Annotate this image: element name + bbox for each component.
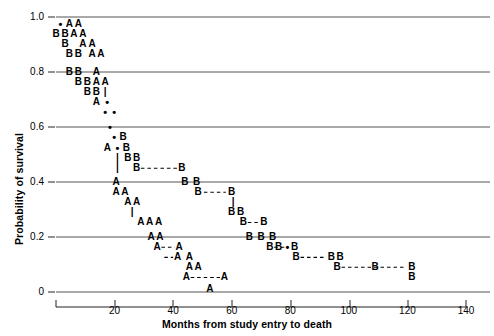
data-marker-b-14: B: [66, 67, 73, 77]
data-marker-b-66: B: [275, 242, 282, 252]
data-marker-b-39: B: [178, 163, 185, 173]
data-marker-|-37: |: [116, 163, 119, 173]
data-marker-|-50: |: [131, 207, 134, 217]
ytick-label-1.0: 1.0: [14, 11, 44, 22]
data-marker-a-24: A: [93, 97, 100, 107]
data-marker-a-80: A: [221, 272, 228, 282]
data-marker-a-55: A: [155, 217, 162, 227]
data-marker-censor-28: •: [108, 122, 112, 133]
data-marker-b-51: B: [228, 207, 235, 217]
y-axis-ticks: [48, 17, 55, 292]
data-marker-b-17: B: [75, 77, 82, 87]
xtick-label-80: 80: [270, 305, 310, 316]
data-marker-a-12: A: [88, 49, 95, 59]
x-axis-label: Months from study entry to death: [0, 318, 494, 330]
data-marker-a-31: A: [104, 143, 111, 153]
ytick-label-0.8: 0.8: [14, 66, 44, 77]
data-marker-b-45: B: [194, 187, 201, 197]
data-marker-a-54: A: [146, 217, 153, 227]
data-marker-a-5: A: [70, 29, 77, 39]
data-marker-a-13: A: [97, 49, 104, 59]
data-marker-b-35: B: [124, 153, 131, 163]
y-axis-label: Probability of survival: [13, 133, 25, 245]
xtick-label-100: 100: [329, 305, 369, 316]
data-marker-b-57: B: [260, 217, 267, 227]
data-marker-b-71: B: [293, 252, 300, 262]
data-marker-a-48: A: [133, 197, 140, 207]
data-marker-b-65: B: [266, 242, 273, 252]
data-marker-b-10: B: [66, 49, 73, 59]
data-marker-censor-27: •: [112, 107, 116, 118]
survival-chart-figure: •AABBAABAABBAABBABBAABB|A•••••BA•B|BB|BB…: [0, 0, 494, 336]
data-marker-b-56: B: [240, 217, 247, 227]
data-marker-a-75: A: [194, 262, 201, 272]
data-marker-b-61: B: [257, 232, 264, 242]
data-marker-b-76: B: [334, 262, 341, 272]
data-marker-b-3: B: [52, 29, 59, 39]
data-marker-censor-26: •: [103, 107, 107, 118]
data-marker-a-53: A: [137, 217, 144, 227]
data-marker-censor-67: •: [285, 242, 289, 253]
xtick-label-60: 60: [212, 305, 252, 316]
data-marker-b-21: B: [84, 87, 91, 97]
data-marker-b-11: B: [75, 49, 82, 59]
data-marker-b-38: B: [133, 163, 140, 173]
ytick-label-0: 0: [14, 286, 44, 297]
data-marker-a-69: A: [174, 252, 181, 262]
xtick-label-20: 20: [95, 305, 135, 316]
data-marker-b-77: B: [372, 262, 379, 272]
ytick-label-0.6: 0.6: [14, 121, 44, 132]
data-marker-a-79: A: [183, 272, 190, 282]
xtick-label-40: 40: [153, 305, 193, 316]
data-marker-a-82: A: [206, 284, 213, 294]
data-marker-b-60: B: [246, 232, 253, 242]
data-marker-b-41: B: [181, 177, 188, 187]
data-marker-a-43: A: [112, 187, 119, 197]
xtick-label-140: 140: [446, 305, 486, 316]
xtick-label-120: 120: [387, 305, 427, 316]
data-marker-a-63: A: [153, 242, 160, 252]
data-marker-b-81: B: [408, 272, 415, 282]
